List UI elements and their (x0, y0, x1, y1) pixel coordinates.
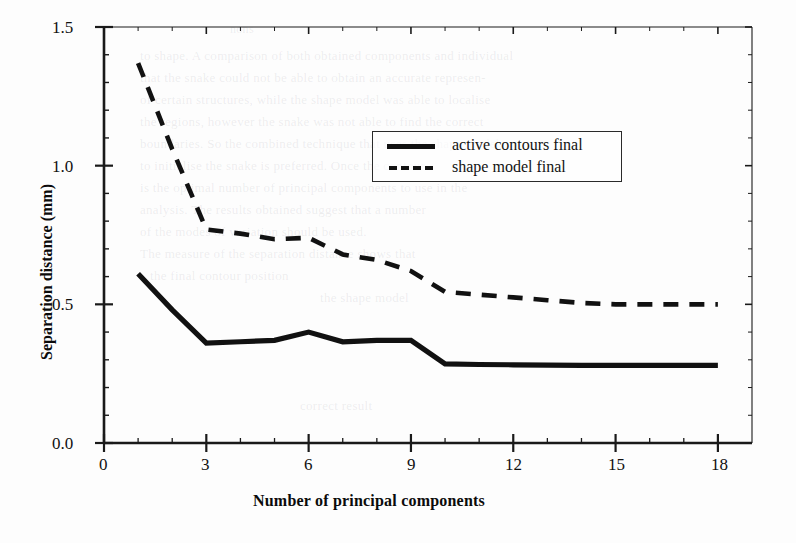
x-tick-label: 12 (505, 455, 522, 475)
x-axis-title: Number of principal components (253, 492, 485, 510)
series-line-active-contours-final (138, 274, 718, 366)
axes-layer (95, 27, 752, 452)
y-tick-label: 1.5 (52, 18, 73, 38)
x-tick-label: 0 (99, 455, 108, 475)
series-layer (138, 63, 718, 365)
x-tick-label: 6 (304, 455, 313, 475)
y-tick-label: 1.0 (52, 157, 73, 177)
legend-entry-shape-model-final: shape model final (383, 156, 566, 178)
x-tick-label: 15 (608, 455, 625, 475)
chart-legend: active contours final shape model final (372, 131, 622, 182)
x-tick-label: 9 (407, 455, 416, 475)
y-tick-label: 0.0 (52, 434, 73, 454)
series-line-shape-model-final (138, 63, 718, 304)
figure-container: nons to shape. A comparison of both obta… (0, 0, 796, 543)
y-axis-title: Separation distance (mm) (38, 184, 56, 360)
x-tick-label: 18 (711, 455, 728, 475)
chart-plot-area (0, 0, 796, 543)
legend-entry-label: shape model final (452, 158, 566, 176)
legend-dashed-line-icon (383, 160, 441, 174)
legend-entry-active-contours-final: active contours final (383, 134, 583, 156)
legend-entry-label: active contours final (452, 136, 583, 154)
x-tick-label: 3 (201, 455, 210, 475)
legend-solid-line-icon (383, 138, 441, 152)
